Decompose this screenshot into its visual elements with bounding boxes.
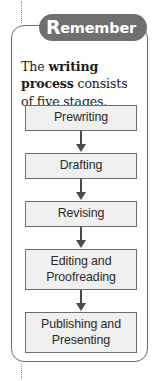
flow-step-box: Drafting [25,153,137,179]
badge-label: emember [60,21,136,36]
flow-step-label: Drafting [60,158,103,174]
down-arrow-head-icon [76,192,86,200]
flow-step-label-line: Prewriting [54,110,108,126]
flow-arrow-3 [25,227,137,249]
flow-step-label-line: Drafting [60,158,103,174]
flow-step-label-line: Editing and [46,254,116,270]
remember-badge: R emember [39,14,147,41]
writing-process-flowchart: PrewritingDraftingRevisingEditing andPro… [25,105,137,353]
flow-step-box: Publishing andPresenting [25,312,137,353]
down-arrow-head-icon [76,240,86,248]
flow-step-box: Editing andProofreading [25,249,137,290]
dotted-guide-bottom [21,364,22,379]
remember-callout: R emember The writing process consists o… [0,0,158,381]
down-arrow-head-icon [76,303,86,311]
flow-arrow-1 [25,131,137,153]
dotted-guide-top [21,1,22,23]
flow-arrow-2 [25,179,137,201]
flow-step-label-line: Publishing and [41,317,121,333]
intro-paragraph: The writing process consists of five sta… [21,58,139,111]
badge-initial-letter: R [46,18,60,37]
intro-text: The [21,59,48,74]
flow-arrow-4 [25,290,137,312]
flow-step-label-line: Revising [58,206,105,222]
flow-step-label-line: Proofreading [46,270,116,286]
flow-step-label: Editing andProofreading [46,254,116,285]
flow-step-label: Publishing andPresenting [41,317,121,348]
flow-step-label: Revising [58,206,105,222]
flow-step-label-line: Presenting [41,333,121,349]
flow-step-box: Revising [25,201,137,227]
flow-step-box: Prewriting [25,105,137,131]
down-arrow-head-icon [76,144,86,152]
flow-step-label: Prewriting [54,110,108,126]
